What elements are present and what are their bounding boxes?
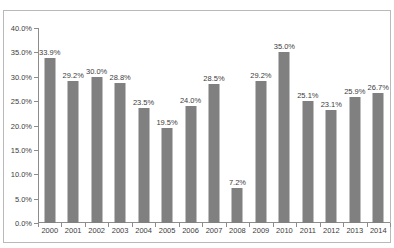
bar-slot: 23.5% — [132, 28, 155, 223]
x-axis-labels: 2000200120022003200420052006200720082009… — [38, 226, 390, 240]
bar-value-label: 29.2% — [250, 71, 271, 80]
bar-slot: 23.1% — [320, 28, 343, 223]
x-axis-tick-label: 2003 — [112, 226, 129, 235]
plot-area: 0.0%5.0%10.0%15.0%20.0%25.0%30.0%35.0%40… — [38, 28, 390, 223]
bar — [44, 58, 55, 223]
x-axis-tick-label: 2012 — [323, 226, 340, 235]
y-axis-tick-label: 0.0% — [15, 219, 32, 228]
x-axis-tick-label: 2001 — [65, 226, 82, 235]
x-axis-tick-label: 2011 — [300, 226, 316, 235]
bar — [302, 101, 313, 223]
y-axis-tick-label: 15.0% — [11, 145, 32, 154]
y-axis-tick-label: 5.0% — [15, 194, 32, 203]
bar-slot: 19.5% — [155, 28, 178, 223]
bar-value-label: 19.5% — [156, 118, 177, 127]
x-axis-tick-label: 2008 — [229, 226, 246, 235]
x-axis-tick-label: 2002 — [88, 226, 105, 235]
bar — [68, 81, 79, 223]
bar-slot: 28.8% — [108, 28, 131, 223]
x-axis-tick-label: 2006 — [182, 226, 199, 235]
x-axis-tick — [390, 223, 391, 227]
bar-slot: 25.1% — [296, 28, 319, 223]
bar — [279, 52, 290, 223]
bar-slot: 28.5% — [202, 28, 225, 223]
y-axis-tick-label: 40.0% — [11, 24, 32, 33]
bar — [349, 97, 360, 223]
bar-slot: 7.2% — [226, 28, 249, 223]
chart-title-clipped — [0, 0, 394, 9]
x-axis-tick-label: 2007 — [206, 226, 223, 235]
x-axis-tick-label: 2000 — [41, 226, 58, 235]
bar-value-label: 29.2% — [63, 71, 84, 80]
bar — [208, 84, 219, 223]
bar-value-label: 28.8% — [109, 73, 130, 82]
bar — [326, 110, 337, 223]
bar — [255, 81, 266, 223]
x-axis-tick-label: 2014 — [370, 226, 387, 235]
x-axis-tick-label: 2004 — [135, 226, 152, 235]
y-axis-tick-label: 20.0% — [11, 121, 32, 130]
x-axis-tick-label: 2013 — [346, 226, 363, 235]
bar-slot: 24.0% — [179, 28, 202, 223]
bar-slot: 25.9% — [343, 28, 366, 223]
bar — [162, 128, 173, 223]
x-axis-tick-label: 2010 — [276, 226, 293, 235]
bar-value-label: 7.2% — [229, 178, 246, 187]
bar — [91, 77, 102, 223]
chart-frame: 0.0%5.0%10.0%15.0%20.0%25.0%30.0%35.0%40… — [3, 10, 391, 243]
bar-value-label: 30.0% — [86, 67, 107, 76]
y-axis-tick-label: 30.0% — [11, 72, 32, 81]
y-axis-tick-label: 35.0% — [11, 48, 32, 57]
bar-value-label: 25.1% — [297, 91, 318, 100]
x-axis-tick-label: 2009 — [253, 226, 270, 235]
bar-value-label: 33.9% — [39, 48, 60, 57]
bar — [232, 188, 243, 223]
bar-value-label: 23.1% — [321, 100, 342, 109]
bar — [185, 106, 196, 223]
bar — [115, 83, 126, 223]
chart-screenshot: 0.0%5.0%10.0%15.0%20.0%25.0%30.0%35.0%40… — [0, 0, 394, 248]
y-axis-tick-label: 25.0% — [11, 97, 32, 106]
bar-value-label: 26.7% — [368, 83, 389, 92]
x-axis-tick-label: 2005 — [159, 226, 176, 235]
bar — [138, 108, 149, 223]
bar-value-label: 24.0% — [180, 96, 201, 105]
bar-series: 33.9%29.2%30.0%28.8%23.5%19.5%24.0%28.5%… — [38, 28, 390, 223]
bar-slot: 35.0% — [273, 28, 296, 223]
bar-slot: 29.2% — [249, 28, 272, 223]
bar-value-label: 28.5% — [203, 74, 224, 83]
bar-slot: 29.2% — [61, 28, 84, 223]
bar-value-label: 35.0% — [274, 42, 295, 51]
bar-value-label: 23.5% — [133, 98, 154, 107]
bar-slot: 26.7% — [367, 28, 390, 223]
bar-slot: 30.0% — [85, 28, 108, 223]
y-axis-tick-label: 10.0% — [11, 170, 32, 179]
bar — [373, 93, 384, 223]
bar-slot: 33.9% — [38, 28, 61, 223]
bar-value-label: 25.9% — [344, 87, 365, 96]
